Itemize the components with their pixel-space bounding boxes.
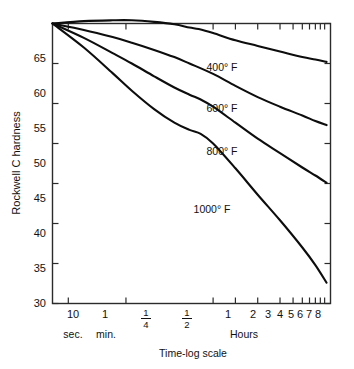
y-tick-label-55: 55 (34, 122, 46, 134)
quarter-denominator: 4 (143, 319, 148, 330)
y-axis-title: Rockwell C hardness (10, 111, 22, 215)
x-tick-label-quarter: 1 4 (141, 307, 151, 330)
data-curves (53, 20, 327, 283)
curve-800-f (53, 24, 327, 183)
x-tick-label-8h: 8 (315, 308, 321, 320)
half-numerator: 1 (184, 307, 189, 318)
half-denominator: 2 (184, 319, 189, 330)
x-tick-label-5h: 5 (288, 308, 294, 320)
series-label-800f: 800° F (206, 145, 237, 157)
y-tick-label-30: 30 (34, 297, 46, 309)
x-unit-caption-hours: Hours (230, 328, 258, 340)
curve-600-f (53, 24, 327, 126)
y-tick-label-65: 65 (34, 52, 46, 64)
x-unit-caption-sec: sec. (63, 328, 82, 340)
y-tick-label-35: 35 (34, 262, 46, 274)
series-label-1000f: 1000° F (194, 203, 231, 215)
chart-canvas: 65 60 55 50 45 40 35 30 Rockwell C hardn… (0, 0, 354, 369)
x-axis-title: Time-log scale (159, 347, 227, 359)
x-tick-label-2h: 2 (250, 308, 256, 320)
y-tick-label-50: 50 (34, 157, 46, 169)
y-tick-label-60: 60 (34, 87, 46, 99)
quarter-numerator: 1 (143, 307, 148, 318)
tempering-hardness-chart: 65 60 55 50 45 40 35 30 Rockwell C hardn… (0, 0, 354, 369)
x-tick-label-half: 1 2 (182, 307, 192, 330)
x-tick-label-1min: 1 (102, 308, 108, 320)
x-tick-label-4h: 4 (277, 308, 283, 320)
x-tick-label-7h: 7 (306, 308, 312, 320)
series-label-400f: 400° F (206, 61, 237, 73)
x-unit-caption-min: min. (96, 328, 116, 340)
series-label-600f: 600° F (206, 102, 237, 114)
x-tick-label-10sec: 10 (67, 308, 79, 320)
y-tick-label-45: 45 (34, 192, 46, 204)
x-tick-label-1h: 1 (225, 308, 231, 320)
x-tick-label-6h: 6 (297, 308, 303, 320)
x-tick-label-3h: 3 (265, 308, 271, 320)
y-tick-label-40: 40 (34, 227, 46, 239)
